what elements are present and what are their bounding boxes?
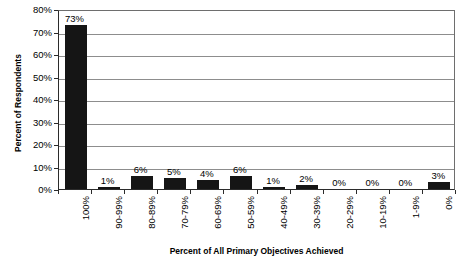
bar-value-label: 1%	[88, 175, 128, 186]
y-tick-label: 30%	[6, 117, 52, 128]
x-tick-label: 60-69%	[212, 196, 223, 229]
x-tick-mark	[91, 190, 92, 194]
y-tick-label: 0%	[6, 184, 52, 195]
y-tick-mark	[54, 145, 58, 146]
x-tick-label: 40-49%	[278, 196, 289, 229]
y-tick-mark	[54, 33, 58, 34]
x-tick-mark	[323, 190, 324, 194]
y-tick-mark	[54, 168, 58, 169]
x-tick-mark	[389, 190, 390, 194]
bar-value-label: 6%	[220, 164, 260, 175]
x-tick-label: 90-99%	[113, 196, 124, 229]
bar-value-label: 73%	[55, 13, 95, 24]
x-tick-label: 30-39%	[311, 196, 322, 229]
x-tick-label: 50-59%	[245, 196, 256, 229]
x-tick-mark	[455, 190, 456, 194]
x-tick-mark	[223, 190, 224, 194]
x-tick-mark	[422, 190, 423, 194]
y-tick-label: 60%	[6, 49, 52, 60]
y-tick-mark	[54, 123, 58, 124]
x-tick-label: 10-19%	[377, 196, 388, 229]
bar-value-label: 3%	[418, 170, 458, 181]
y-tick-label: 40%	[6, 94, 52, 105]
x-tick-label: 1-9%	[410, 196, 421, 218]
y-tick-label: 20%	[6, 139, 52, 150]
y-tick-mark	[54, 55, 58, 56]
x-tick-label: 100%	[80, 196, 91, 220]
y-tick-label: 80%	[6, 4, 52, 15]
y-tick-label: 10%	[6, 162, 52, 173]
y-tick-mark	[54, 100, 58, 101]
y-axis: 80%70%60%50%40%30%20%10%0%	[0, 0, 470, 266]
x-tick-mark	[356, 190, 357, 194]
x-tick-mark	[157, 190, 158, 194]
y-tick-mark	[54, 78, 58, 79]
y-tick-label: 70%	[6, 27, 52, 38]
x-tick-label: 20-29%	[344, 196, 355, 229]
x-tick-mark	[58, 190, 59, 194]
y-tick-mark	[54, 10, 58, 11]
x-tick-label: 0%	[443, 196, 454, 210]
x-tick-mark	[257, 190, 258, 194]
x-tick-label: 80-89%	[146, 196, 157, 229]
x-tick-mark	[124, 190, 125, 194]
x-tick-mark	[290, 190, 291, 194]
x-tick-label: 70-79%	[179, 196, 190, 229]
bar-chart: Percent of Respondents 80%70%60%50%40%30…	[0, 0, 470, 266]
x-tick-mark	[190, 190, 191, 194]
x-axis-title: Percent of All Primary Objectives Achiev…	[58, 246, 455, 256]
y-tick-label: 50%	[6, 72, 52, 83]
